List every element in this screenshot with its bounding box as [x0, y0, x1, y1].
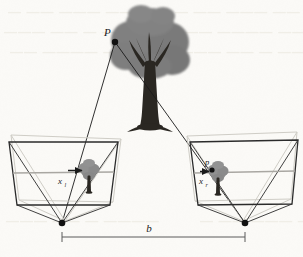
bleed-row-4: —— ———— —— ——— [185, 24, 303, 39]
bleed-row-5: ——— —— — ———— [180, 44, 303, 59]
scene-point-label: P [103, 26, 111, 38]
left-disparity-base: x [57, 176, 62, 186]
stereo-vision-figure: — —— ——— —— ——— —— — ———— —— ———— —— ———… [0, 0, 303, 257]
scene-point-marker [112, 39, 118, 45]
bleed-row-0: — —— ——— —— [8, 4, 134, 19]
right-camera-center [242, 220, 249, 227]
diagram-canvas: — —— ——— —— ——— —— — ———— —— ———— —— ———… [0, 0, 303, 257]
baseline-label: b [146, 222, 152, 234]
right-disparity-base: x [198, 176, 203, 186]
bleed-row-3: — —— ——— —— [175, 4, 301, 19]
right-image-point-label: p [204, 157, 209, 167]
left-camera-center [59, 220, 66, 227]
left-epipolar-line [13, 172, 114, 173]
right-image-point-marker [209, 167, 214, 172]
